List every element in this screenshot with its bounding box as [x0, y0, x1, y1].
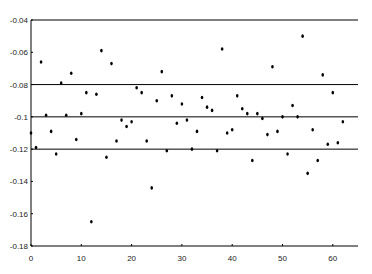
data-point [85, 91, 88, 95]
data-point [286, 152, 289, 156]
data-point [246, 112, 249, 116]
x-tick-label: 40 [228, 254, 237, 263]
data-point [35, 146, 38, 150]
data-point [50, 130, 53, 134]
data-point [266, 133, 269, 137]
data-point [241, 107, 244, 111]
data-point [281, 115, 284, 119]
data-point [65, 113, 68, 117]
data-point [130, 120, 133, 124]
y-tick-label: -0.06 [10, 48, 29, 57]
axes [31, 20, 358, 246]
data-point [337, 141, 340, 145]
data-point [95, 92, 98, 96]
data-points [30, 34, 344, 223]
data-point [150, 186, 153, 190]
data-point [70, 71, 73, 75]
data-point [120, 118, 123, 122]
x-tick-label: 10 [77, 254, 86, 263]
data-point [115, 139, 118, 143]
data-point [251, 159, 254, 163]
data-point [201, 96, 204, 100]
y-tick-label: -0.1 [14, 113, 28, 122]
data-point [55, 152, 58, 156]
data-point [342, 120, 345, 124]
data-point [155, 99, 158, 103]
reference-lines [31, 20, 358, 149]
y-tick-label: -0.14 [10, 177, 29, 186]
data-point [276, 130, 279, 134]
data-point [326, 143, 329, 147]
data-point [291, 104, 294, 108]
x-tick-label: 30 [177, 254, 186, 263]
y-tick-label: -0.12 [10, 145, 29, 154]
data-point [176, 122, 179, 126]
data-point [271, 65, 274, 69]
data-point [75, 138, 78, 142]
data-point [231, 128, 234, 132]
data-point [296, 115, 299, 119]
data-point [160, 70, 163, 74]
data-point [306, 172, 309, 176]
x-tick-labels: 0102030405060 [29, 244, 338, 263]
data-point [226, 131, 229, 135]
data-point [80, 112, 83, 116]
data-point [145, 139, 148, 143]
data-point [301, 34, 304, 38]
data-point [186, 118, 189, 122]
data-point [90, 220, 93, 224]
y-tick-label: -0.04 [10, 16, 29, 25]
data-point [311, 128, 314, 132]
x-tick-label: 20 [127, 254, 136, 263]
data-point [60, 81, 63, 85]
data-point [125, 125, 128, 129]
data-point [105, 155, 108, 159]
y-tick-label: -0.08 [10, 81, 29, 90]
data-point [140, 91, 143, 95]
data-point [30, 131, 33, 135]
data-point [135, 86, 138, 90]
data-point [221, 47, 224, 51]
x-tick-label: 50 [278, 254, 287, 263]
data-point [211, 109, 214, 113]
data-point [206, 105, 209, 109]
data-point [191, 147, 194, 151]
data-point [100, 49, 103, 53]
data-point [216, 149, 219, 153]
y-tick-label: -0.18 [10, 242, 29, 251]
data-point [110, 62, 113, 66]
scatter-chart: -0.04-0.06-0.08-0.1-0.12-0.14-0.16-0.18 … [0, 0, 372, 274]
x-tick-label: 0 [29, 254, 34, 263]
data-point [196, 130, 199, 134]
data-point [166, 149, 169, 153]
data-point [321, 73, 324, 77]
x-tick-label: 60 [328, 254, 337, 263]
data-point [40, 60, 43, 64]
y-tick-label: -0.16 [10, 210, 29, 219]
data-point [171, 94, 174, 98]
data-point [261, 117, 264, 121]
y-tick-labels: -0.04-0.06-0.08-0.1-0.12-0.14-0.16-0.18 [10, 16, 33, 251]
data-point [256, 112, 259, 116]
data-point [332, 91, 335, 95]
data-point [45, 113, 48, 117]
data-point [316, 159, 319, 163]
data-point [236, 94, 239, 98]
data-point [181, 102, 184, 106]
